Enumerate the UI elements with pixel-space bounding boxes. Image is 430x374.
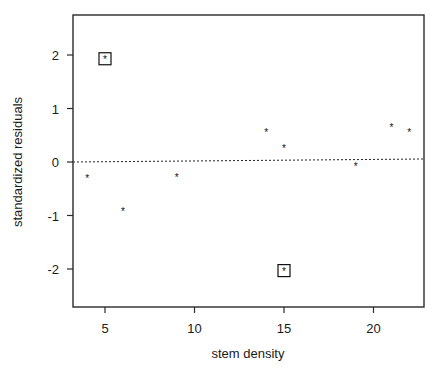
star-marker-icon: * bbox=[354, 161, 358, 172]
y-tick-label: 0 bbox=[52, 155, 59, 170]
star-marker-icon: * bbox=[175, 172, 179, 183]
y-tick-label: -1 bbox=[47, 209, 59, 224]
plot-frame bbox=[73, 15, 424, 307]
x-tick-label: 5 bbox=[101, 321, 108, 336]
data-point: * bbox=[389, 122, 393, 133]
zero-reference-line bbox=[73, 159, 424, 162]
star-marker-icon: * bbox=[282, 143, 286, 154]
star-marker-icon: * bbox=[85, 173, 89, 184]
y-axis-title: standardized residuals bbox=[10, 96, 25, 227]
highlighted-data-point: * bbox=[99, 53, 111, 65]
x-tick-label: 15 bbox=[277, 321, 291, 336]
x-axis-title: stem density bbox=[212, 346, 285, 361]
star-marker-icon: * bbox=[389, 122, 393, 133]
data-point: * bbox=[85, 173, 89, 184]
star-marker-icon: * bbox=[121, 206, 125, 217]
data-point: * bbox=[407, 127, 411, 138]
x-tick-label: 10 bbox=[187, 321, 201, 336]
star-marker-icon: * bbox=[407, 127, 411, 138]
data-points: ********** bbox=[85, 53, 411, 277]
y-tick-label: 2 bbox=[52, 48, 59, 63]
x-tick-label: 20 bbox=[366, 321, 380, 336]
data-point: * bbox=[264, 127, 268, 138]
x-axis-ticks: 5101520 bbox=[101, 307, 380, 336]
y-axis-ticks: -2-1012 bbox=[47, 48, 73, 277]
data-point: * bbox=[282, 143, 286, 154]
star-marker-icon: * bbox=[103, 54, 107, 65]
y-tick-label: -2 bbox=[47, 262, 59, 277]
y-tick-label: 1 bbox=[52, 102, 59, 117]
data-point: * bbox=[354, 161, 358, 172]
star-marker-icon: * bbox=[282, 266, 286, 277]
residual-scatter-plot: 5101520 -2-1012 ********** stem density … bbox=[0, 0, 430, 374]
star-marker-icon: * bbox=[264, 127, 268, 138]
data-point: * bbox=[121, 206, 125, 217]
data-point: * bbox=[175, 172, 179, 183]
highlighted-data-point: * bbox=[278, 265, 290, 277]
